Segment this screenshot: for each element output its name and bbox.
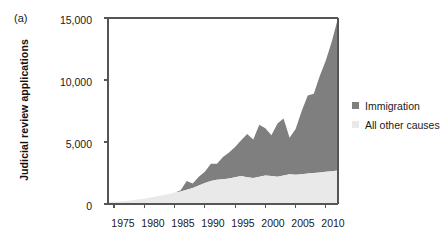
legend-item-all-other-causes: All other causes	[352, 115, 440, 134]
chart-legend: Immigration All other causes	[352, 96, 440, 134]
legend-swatch-all-other-causes	[352, 121, 359, 128]
legend-label-all-other-causes: All other causes	[365, 119, 440, 131]
chart-figure: (a) Judicial review applications 15,000 …	[0, 0, 441, 248]
legend-label-immigration: Immigration	[365, 100, 420, 112]
legend-item-immigration: Immigration	[352, 96, 440, 115]
legend-swatch-immigration	[352, 102, 359, 109]
